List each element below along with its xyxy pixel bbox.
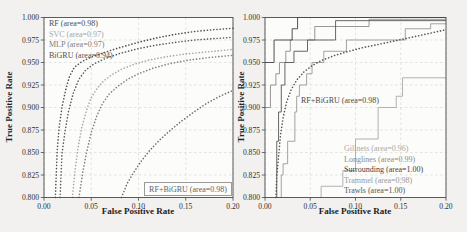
roc-figure: True Positive Rate False Positive Rate R…	[0, 0, 467, 232]
roc-curves-canvas	[0, 0, 467, 232]
